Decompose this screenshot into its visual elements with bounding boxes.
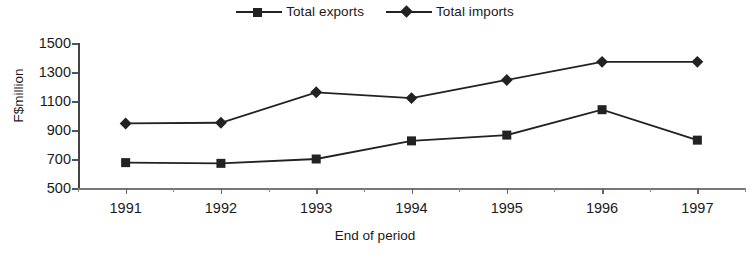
square-marker-icon bbox=[236, 5, 282, 19]
x-tick-minor bbox=[364, 188, 365, 192]
series-total-imports bbox=[120, 56, 704, 129]
square-marker-icon bbox=[312, 155, 321, 164]
plot-area: 500700900110013001500 199119921993199419… bbox=[78, 43, 745, 188]
x-tick-minor bbox=[650, 188, 651, 192]
diamond-marker-icon bbox=[406, 92, 418, 104]
legend-label-total-imports: Total imports bbox=[436, 4, 514, 19]
x-tick-mark bbox=[412, 188, 414, 194]
x-tick-mark bbox=[316, 188, 318, 194]
x-tick-mark bbox=[507, 188, 509, 194]
x-tick-minor bbox=[78, 188, 79, 192]
legend-label-total-exports: Total exports bbox=[286, 4, 364, 19]
x-tick-label: 1996 bbox=[586, 200, 618, 216]
square-marker-icon bbox=[502, 131, 511, 140]
chart-legend: Total exports Total imports bbox=[0, 4, 750, 19]
y-tick-label: 900 bbox=[47, 123, 71, 138]
x-tick-label: 1991 bbox=[110, 200, 142, 216]
x-axis-title: End of period bbox=[0, 228, 750, 243]
x-tick-label: 1994 bbox=[395, 200, 427, 216]
diamond-marker-icon bbox=[310, 86, 322, 98]
y-tick-label: 1300 bbox=[39, 65, 71, 80]
x-tick-label: 1995 bbox=[491, 200, 523, 216]
x-tick-label: 1993 bbox=[300, 200, 332, 216]
x-tick-mark bbox=[697, 188, 699, 194]
x-tick-label: 1992 bbox=[205, 200, 237, 216]
legend-entry-total-exports: Total exports bbox=[236, 4, 364, 19]
diamond-marker-icon bbox=[386, 5, 432, 19]
diamond-marker-icon bbox=[691, 56, 703, 68]
x-tick-mark bbox=[221, 188, 223, 194]
square-marker-icon bbox=[598, 105, 607, 114]
x-tick-minor bbox=[269, 188, 270, 192]
diamond-marker-icon bbox=[501, 74, 513, 86]
square-marker-icon bbox=[407, 136, 416, 145]
square-marker-icon bbox=[693, 136, 702, 145]
series-total-exports bbox=[121, 105, 702, 168]
y-tick-label: 1500 bbox=[39, 36, 71, 51]
x-tick-minor bbox=[459, 188, 460, 192]
square-marker-icon bbox=[121, 158, 130, 167]
x-tick-mark bbox=[602, 188, 604, 194]
diamond-marker-icon bbox=[215, 117, 227, 129]
diamond-marker-icon bbox=[596, 56, 608, 68]
x-tick-minor bbox=[554, 188, 555, 192]
diamond-marker-icon bbox=[120, 118, 132, 130]
legend-entry-total-imports: Total imports bbox=[386, 4, 514, 19]
y-tick-label: 700 bbox=[47, 152, 71, 167]
x-tick-label: 1997 bbox=[681, 200, 713, 216]
x-tick-mark bbox=[126, 188, 128, 194]
line-chart: Total exports Total imports F$million En… bbox=[0, 0, 750, 255]
square-marker-icon bbox=[216, 159, 225, 168]
x-tick-minor bbox=[173, 188, 174, 192]
y-tick-label: 1100 bbox=[40, 94, 71, 109]
x-tick-minor bbox=[745, 188, 746, 192]
series-layer bbox=[78, 43, 745, 188]
y-tick-label: 500 bbox=[47, 181, 71, 196]
y-axis-title: F$million bbox=[11, 51, 26, 141]
